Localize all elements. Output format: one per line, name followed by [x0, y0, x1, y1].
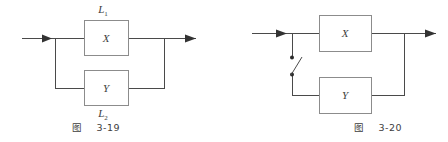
block-x-label: X: [341, 27, 350, 39]
diagram-3-19: X L1 Y L2: [0, 0, 224, 120]
figure-3-19-caption: 图 3-19: [0, 120, 208, 134]
switch-upper-contact-icon: [290, 56, 294, 60]
figure-3-19: X L1 Y L2 图 3-19: [0, 0, 224, 142]
branch-label-l1: L1: [97, 3, 108, 18]
standby-switch[interactable]: [290, 56, 302, 77]
branch-label-l1-subscript: 1: [104, 10, 108, 18]
branch-label-l1-base: L: [97, 3, 104, 15]
figure-3-20: X Y 图 3-20: [224, 0, 448, 142]
block-x-label: X: [102, 32, 111, 44]
switch-blade-icon: [291, 57, 302, 75]
output-arrowhead-icon: [185, 35, 196, 43]
output-arrowhead-icon: [425, 30, 436, 38]
figure-page: X L1 Y L2 图 3-19: [0, 0, 448, 142]
branch-label-l2: L2: [97, 107, 108, 120]
branch-label-l2-base: L: [97, 107, 104, 119]
input-arrowhead-icon: [42, 35, 52, 43]
diagram-3-20: X Y: [224, 0, 448, 120]
figure-3-20-caption: 图 3-20: [266, 120, 448, 134]
input-arrowhead-icon: [276, 30, 287, 38]
